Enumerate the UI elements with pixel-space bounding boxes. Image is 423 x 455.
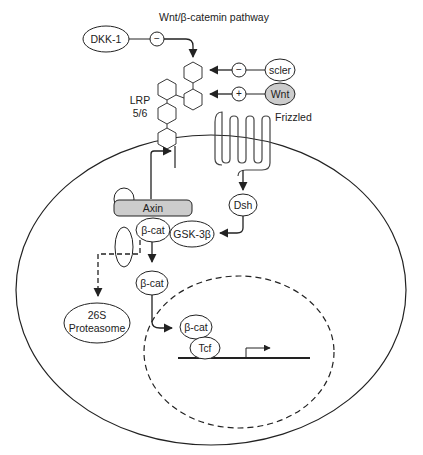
- proteasome-label-1: 26S: [88, 309, 107, 321]
- axin-lrp-arrow: [151, 151, 171, 199]
- svg-text:−: −: [236, 64, 242, 75]
- diagram-title: Wnt/β-catemin pathway: [159, 11, 270, 23]
- frizzled-label: Frizzled: [275, 111, 312, 123]
- tcf-node: Tcf: [190, 337, 220, 359]
- bcat-complex-label: β-cat: [141, 224, 165, 236]
- dkk1-inhibit-sign: −: [150, 32, 164, 46]
- wnt-label: Wnt: [271, 88, 290, 100]
- axin-label: Axin: [143, 202, 164, 214]
- dsh-label: Dsh: [234, 199, 253, 211]
- bcat-complex-node: β-cat: [136, 218, 170, 242]
- frizzled-receptor: [215, 112, 270, 176]
- lrp-label: LRP: [130, 94, 150, 106]
- wnt-pathway-diagram: Wnt/β-catemin pathway DKK-1 − LRP 5/6 − …: [0, 0, 423, 455]
- dkk1-label: DKK-1: [91, 33, 122, 45]
- nuclear-translocation-arrow: [152, 295, 172, 328]
- dsh-node: Dsh: [229, 194, 257, 216]
- svg-text:+: +: [236, 88, 242, 99]
- transcription-start-arrow: [246, 348, 270, 358]
- tcf-label: Tcf: [199, 343, 212, 354]
- wnt-node: Wnt: [265, 83, 295, 105]
- scler-label: scler: [269, 64, 292, 76]
- bcat-nuclear-label: β-cat: [184, 321, 208, 333]
- lrp-label-sub: 5/6: [133, 107, 148, 119]
- svg-text:−: −: [154, 33, 160, 44]
- proteasome-node: 26S Proteasome: [64, 303, 130, 343]
- bcat-free-label: β-cat: [140, 277, 164, 289]
- axin-node: Axin: [114, 200, 192, 216]
- bcat-nuclear-node: β-cat: [180, 315, 212, 339]
- bcat-free-node: β-cat: [136, 271, 168, 295]
- nucleus: [144, 276, 334, 428]
- gsk3b-node: GSK-3β: [170, 221, 214, 247]
- gsk3b-label: GSK-3β: [173, 228, 211, 240]
- dkk1-arrow: [164, 39, 193, 57]
- scler-node: scler: [265, 59, 295, 81]
- dkk1-node: DKK-1: [83, 26, 129, 52]
- proteasome-label-2: Proteasome: [69, 322, 126, 334]
- wnt-activate-sign: +: [232, 87, 246, 101]
- cell-membrane: [16, 135, 406, 445]
- dsh-gsk-arrow: [220, 216, 243, 233]
- scler-inhibit-sign: −: [232, 63, 246, 77]
